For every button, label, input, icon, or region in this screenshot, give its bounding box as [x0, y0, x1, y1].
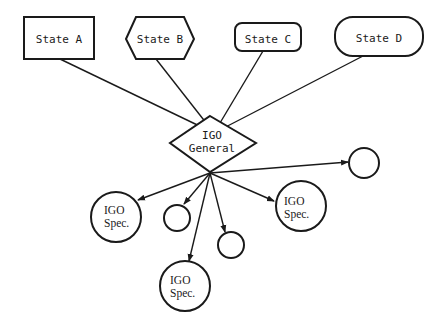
node-igo-general[interactable]: IGO General — [170, 116, 256, 172]
node-state-d[interactable]: State D — [335, 17, 423, 56]
node-unlabeled-3[interactable] — [349, 148, 379, 178]
igo-general-line1: IGO — [202, 129, 222, 142]
state-c-label: State C — [245, 33, 291, 46]
igo-spec-3-line1: IGO — [284, 195, 304, 207]
igo-spec-3-line2: Spec. — [284, 208, 309, 221]
node-state-c[interactable]: State C — [235, 23, 301, 51]
node-state-a[interactable]: State A — [24, 17, 94, 59]
node-igo-spec-3[interactable]: IGO Spec. — [276, 181, 326, 231]
node-state-b[interactable]: State B — [126, 17, 194, 59]
igo-spec-2-line2: Spec. — [170, 287, 195, 300]
node-igo-spec-2[interactable]: IGO Spec. — [160, 261, 210, 311]
igo-general-line2: General — [189, 142, 235, 155]
state-a-label: State A — [36, 33, 83, 46]
node-unlabeled-2[interactable] — [218, 232, 244, 258]
node-unlabeled-1[interactable] — [164, 205, 190, 231]
igo-spec-2-line1: IGO — [170, 274, 190, 286]
igo-spec-1-line2: Spec. — [104, 217, 129, 230]
igo-spec-1-line1: IGO — [104, 204, 124, 216]
diagram-canvas: State A State B State C State D IGO Gene… — [0, 0, 442, 331]
state-d-label: State D — [356, 32, 402, 45]
node-igo-spec-1[interactable]: IGO Spec. — [91, 192, 141, 242]
state-b-label: State B — [137, 33, 184, 46]
